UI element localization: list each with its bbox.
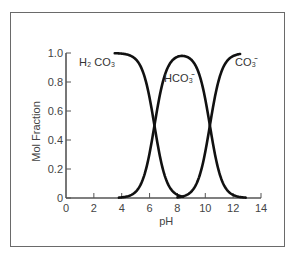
x-tick-label: 8	[174, 202, 180, 214]
x-axis-title: pH	[159, 215, 173, 227]
species-labels: H₂ CO₃HCO₃̄CO₃̄	[79, 56, 258, 84]
x-tick-label: 0	[63, 202, 69, 214]
label-hco3: HCO₃̄	[164, 72, 195, 84]
x-tick-label: 6	[147, 202, 153, 214]
label-co3: CO₃̄	[235, 56, 258, 68]
y-tick-label: 1.0	[48, 47, 63, 59]
y-tick-label: 0.2	[48, 163, 63, 175]
x-tick-label: 4	[119, 202, 125, 214]
speciation-chart: 00.20.40.60.81.002468101214pHMol Fractio…	[0, 0, 295, 256]
y-tick-label: 0.4	[48, 134, 63, 146]
axes: 00.20.40.60.81.002468101214pHMol Fractio…	[30, 47, 267, 227]
x-tick-label: 2	[91, 202, 97, 214]
y-axis-title: Mol Fraction	[30, 101, 42, 162]
y-tick-label: 0.8	[48, 76, 63, 88]
y-tick-label: 0.6	[48, 105, 63, 117]
x-tick-label: 14	[255, 202, 267, 214]
x-tick-label: 10	[199, 202, 211, 214]
label-h2co3: H₂ CO₃	[79, 56, 115, 68]
x-tick-label: 12	[227, 202, 239, 214]
